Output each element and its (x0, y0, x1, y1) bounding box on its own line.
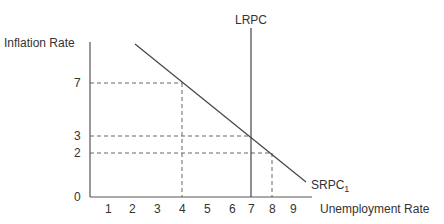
x-tick-2: 2 (129, 202, 136, 216)
phillips-curve-diagram: Inflation Rate Unemployment Rate 7 3 2 0… (0, 0, 444, 224)
y-tick-3: 3 (74, 129, 81, 143)
srpc-subscript: 1 (344, 184, 349, 194)
y-tick-2: 2 (74, 146, 81, 160)
x-tick-7: 7 (248, 202, 255, 216)
y-tick-7: 7 (74, 76, 81, 90)
x-tick-4: 4 (179, 202, 186, 216)
x-tick-1: 1 (105, 202, 112, 216)
lrpc-label: LRPC (235, 13, 267, 27)
y-tick-0: 0 (74, 190, 81, 204)
y-axis-label: Inflation Rate (4, 36, 75, 50)
srpc-line (135, 44, 306, 182)
x-tick-6: 6 (229, 202, 236, 216)
srpc-label: SRPC1 (311, 178, 349, 194)
x-tick-5: 5 (204, 202, 211, 216)
x-tick-3: 3 (154, 202, 161, 216)
x-tick-9: 9 (290, 202, 297, 216)
x-tick-8: 8 (269, 202, 276, 216)
x-axis-label: Unemployment Rate (320, 202, 430, 216)
